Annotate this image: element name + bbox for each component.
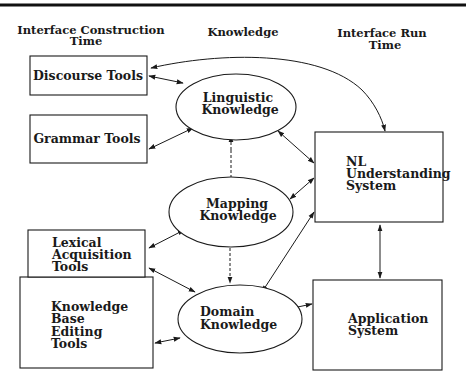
edge-linguistic-nl [278,131,314,163]
lexical-acquisition-tools-box: Lexical Acquisition Tools [28,230,145,277]
edge-lexical-mapping [149,230,184,248]
edge-mapping-nl [290,178,314,199]
linguistic-label-line2: Knowledge [201,102,278,117]
discourse-tools-label: Discourse Tools [33,68,143,83]
kb-editing-tools-box: Knowledge Base Editing Tools [20,277,153,368]
edge-lexical-domain [149,268,195,292]
domain-label-line2: Knowledge [200,317,277,332]
kb-label-line4: Tools [51,336,87,351]
app-label-line2: System [348,323,398,338]
header-construction-line2: Time [70,34,102,48]
domain-knowledge-node: Domain Knowledge [178,285,302,353]
mapping-label-line2: Knowledge [199,208,276,223]
header-construction-time: Interface Construction Time [17,23,165,48]
linguistic-knowledge-node: Linguistic Knowledge [176,74,296,140]
architecture-diagram: Interface Construction Time Knowledge In… [0,0,466,380]
edge-discourse-linguistic [149,76,183,83]
edge-kb-domain [155,338,180,343]
application-system-box: Application System [313,280,442,370]
header-knowledge: Knowledge [207,25,278,39]
mapping-knowledge-node: Mapping Knowledge [169,177,293,247]
edge-grammar-linguistic [149,128,193,149]
grammar-tools-label: Grammar Tools [33,131,140,146]
header-run-time: Interface Run Time [337,26,427,52]
header-runtime-line2: Time [369,38,401,52]
grammar-tools-box: Grammar Tools [30,115,147,163]
lexical-label-line3: Tools [52,259,88,274]
nl-label-line3: System [346,178,396,193]
discourse-tools-box: Discourse Tools [30,56,147,95]
nl-understanding-system-box: NL Understanding System [315,132,451,222]
